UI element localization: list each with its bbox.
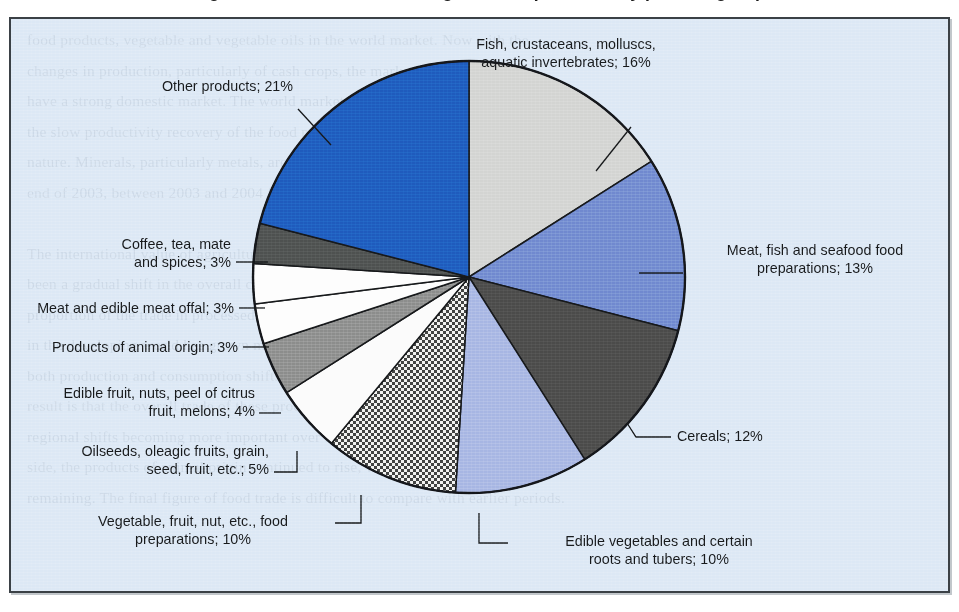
- leader-line-veg-prep: [335, 495, 361, 523]
- callout-fish: Fish, crustaceans, molluscs, aquatic inv…: [432, 36, 700, 71]
- chart-panel: food products, vegetable and vegetable o…: [9, 17, 950, 593]
- callout-other-products: Other products; 21%: [81, 78, 293, 96]
- callout-edible-vegetables: Edible vegetables and certain roots and …: [514, 533, 804, 568]
- callout-vegetable-fruit-nut-preparations: Vegetable, fruit, nut, etc., food prepar…: [55, 513, 331, 548]
- page-title-strip: Figure: Structure of trade in agricultur…: [0, 0, 959, 11]
- page-title: Figure: Structure of trade in agricultur…: [193, 0, 766, 2]
- callout-meat-and-edible-meat-offal: Meat and edible meat offal; 3%: [15, 300, 234, 318]
- callout-oilseeds: Oilseeds, oleagic fruits, grain, seed, f…: [31, 443, 269, 478]
- callout-coffee-tea-mate-spices: Coffee, tea, mate and spices; 3%: [31, 236, 231, 271]
- leader-line-cereals: [627, 423, 671, 437]
- leader-line-edible-vegetables: [479, 513, 508, 543]
- callout-cereals: Cereals; 12%: [677, 428, 857, 446]
- pie-slice-group: [253, 61, 685, 493]
- callout-meat-seafood-preparations: Meat, fish and seafood food preparations…: [696, 242, 934, 277]
- leader-line-oilseeds: [274, 451, 297, 472]
- callout-products-of-animal-origin: Products of animal origin; 3%: [19, 339, 238, 357]
- callout-edible-fruit: Edible fruit, nuts, peel of citrus fruit…: [19, 385, 255, 420]
